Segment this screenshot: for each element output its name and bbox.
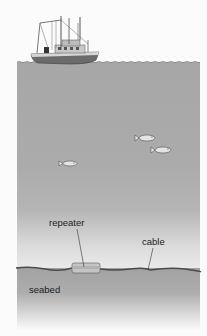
fish-icon: [151, 147, 171, 153]
fishing-boat-icon: [31, 16, 99, 64]
repeater-leader-line: [77, 229, 84, 267]
cable-line: [16, 267, 201, 272]
fish-icon: [135, 135, 155, 141]
cable-leader-line: [148, 248, 153, 270]
seabed-label: seabed: [29, 284, 60, 295]
fish-icon: [59, 161, 77, 166]
diagram-scene: repeater cable seabed: [0, 0, 207, 336]
cable-label: cable: [142, 236, 165, 247]
repeater-icon: [72, 263, 100, 273]
repeater-label: repeater: [49, 217, 84, 228]
